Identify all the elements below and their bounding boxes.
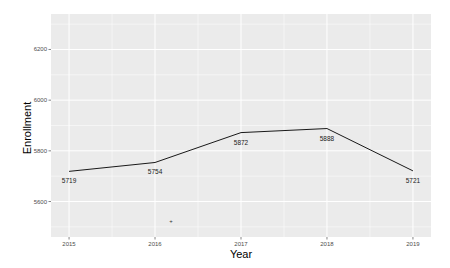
cursor-crosshair-icon: + <box>169 218 173 224</box>
y-axis: 5600580060006200 <box>34 46 51 204</box>
x-tick-label: 2017 <box>234 241 248 247</box>
y-tick-label: 5600 <box>34 199 48 205</box>
y-tick-label: 6200 <box>34 46 48 52</box>
x-axis: 20152016201720182019 <box>62 237 420 247</box>
data-label: 5719 <box>62 177 77 184</box>
data-label: 5872 <box>234 139 249 146</box>
x-tick-label: 2016 <box>148 241 162 247</box>
enrollment-line-chart: 57195754587258885721 5600580060006200 20… <box>0 0 450 268</box>
data-label: 5888 <box>320 135 335 142</box>
x-tick-label: 2015 <box>62 241 76 247</box>
y-axis-title: Enrollment <box>21 102 33 155</box>
x-tick-label: 2018 <box>320 241 334 247</box>
x-axis-title: Year <box>230 248 253 260</box>
y-tick-label: 6000 <box>34 97 48 103</box>
y-tick-label: 5800 <box>34 148 48 154</box>
data-label: 5721 <box>406 177 421 184</box>
data-label: 5754 <box>148 168 163 175</box>
x-tick-label: 2019 <box>406 241 420 247</box>
